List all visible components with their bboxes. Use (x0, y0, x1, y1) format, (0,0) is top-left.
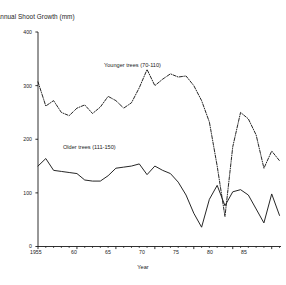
chart-figure: Annual Shoot Growth (mm) 400 300 200 100… (0, 0, 286, 285)
series-line-younger-trees (38, 70, 280, 217)
axis-lines (38, 32, 281, 247)
plot-area (0, 0, 286, 285)
series-line-older-trees (38, 159, 280, 228)
